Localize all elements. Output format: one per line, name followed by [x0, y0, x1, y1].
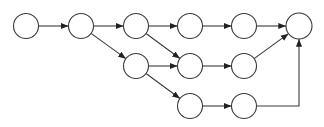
graph-node-n8	[178, 54, 203, 79]
graph-node-n5	[232, 14, 257, 39]
graph-node-n4	[178, 14, 203, 39]
graph-node-n2	[69, 14, 94, 39]
edge-n2-n7	[91, 33, 126, 58]
graph-node-n10	[178, 94, 203, 119]
edge-n3-n8	[146, 33, 180, 58]
graph-node-n11	[232, 94, 257, 119]
graph-node-n3	[124, 14, 149, 39]
edge-n9-n6	[254, 34, 288, 59]
diagram-canvas	[0, 0, 324, 127]
directed-graph	[0, 0, 324, 127]
edge-n11-n6	[257, 39, 300, 106]
graph-node-n1	[14, 14, 39, 39]
graph-node-n9	[232, 54, 257, 79]
graph-node-n7	[124, 54, 149, 79]
graph-node-n6	[286, 13, 312, 39]
edge-n7-n10	[146, 73, 180, 98]
